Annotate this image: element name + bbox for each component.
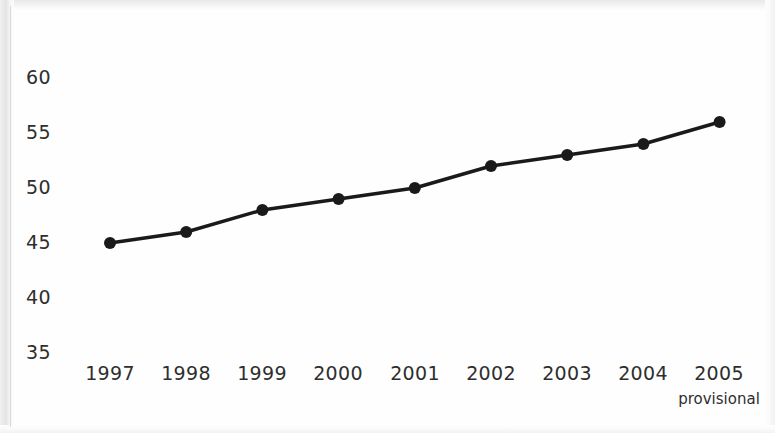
data-point-marker [637, 138, 649, 150]
plot-area: 60 55 50 45 40 35 1997 1998 1999 2000 20… [0, 0, 775, 433]
x-axis-provisional-note: provisional [664, 390, 774, 408]
data-point-marker [256, 204, 268, 216]
x-axis-tick-label: 2005 [674, 362, 764, 384]
data-point-marker [485, 160, 497, 172]
data-point-marker [409, 182, 421, 194]
data-point-marker [561, 149, 573, 161]
data-point-marker [104, 237, 116, 249]
chart-figure: 60 55 50 45 40 35 1997 1998 1999 2000 20… [0, 0, 775, 433]
data-point-marker [714, 116, 726, 128]
data-point-marker [180, 226, 192, 238]
data-point-marker [333, 193, 345, 205]
